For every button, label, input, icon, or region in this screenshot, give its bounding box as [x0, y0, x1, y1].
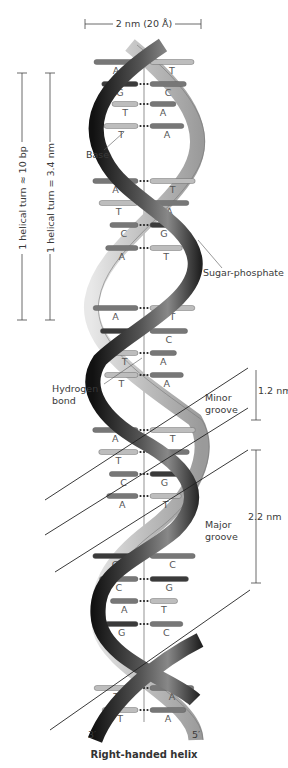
turn-nm-label: 1 helical turn = 3.4 nm — [45, 143, 56, 253]
base-letter-right: C — [169, 559, 176, 570]
base-letter-left: C — [115, 582, 122, 593]
base-letter-left: G — [118, 627, 125, 638]
base-letter-left: T — [121, 356, 128, 367]
base-letter-right: T — [169, 433, 176, 444]
base-letter-left: A — [119, 499, 126, 510]
dna-double-helix-diagram: 2 nm (20 Å) 1 helical turn ≈ 10 bp 1 hel… — [0, 0, 288, 768]
minor-groove-label-line1: Minor — [205, 392, 232, 403]
base-letter-right: A — [160, 356, 167, 367]
base-letter-right: T — [160, 604, 167, 615]
turn-bp-label: 1 helical turn ≈ 10 bp — [17, 146, 28, 250]
base-letter-left: A — [112, 311, 119, 322]
three-prime-end-label: 3′ — [88, 729, 96, 740]
base-letter-right: G — [161, 477, 168, 488]
groove-dimensions — [251, 370, 261, 583]
base-letter-right: C — [165, 334, 172, 345]
base-letter-left: T — [117, 378, 124, 389]
base-letter-right: A — [165, 713, 172, 724]
minor-groove-width-label: 1.2 nm — [258, 385, 288, 396]
base-letter-right: A — [163, 378, 170, 389]
hydrogen-bond-label-line1: Hydrogen — [52, 383, 98, 394]
diagram-caption: Right-handed helix — [90, 749, 198, 760]
major-groove-width-label: 2.2 nm — [248, 511, 281, 522]
base-letter-right: T — [162, 251, 169, 262]
base-letter-left: T — [115, 206, 122, 217]
base-letter-right: C — [163, 627, 170, 638]
major-groove-label-line2: groove — [205, 531, 238, 542]
width-dimension: 2 nm (20 Å) — [85, 16, 201, 30]
base-letter-right: T — [169, 184, 176, 195]
minor-groove-label-line2: groove — [205, 404, 238, 415]
base-letter-left: C — [120, 477, 127, 488]
sugar-phosphate-label: Sugar-phosphate — [203, 267, 284, 278]
hydrogen-bond-label-line2: bond — [52, 395, 76, 406]
base-letter-left: T — [117, 129, 124, 140]
base-letter-left: A — [119, 251, 126, 262]
width-label: 2 nm (20 Å) — [116, 18, 172, 29]
base-letter-left: A — [112, 433, 119, 444]
base-letter-right: A — [164, 129, 171, 140]
base-letter-left: A — [121, 604, 128, 615]
base-letter-left: T — [114, 455, 121, 466]
helical-turn-dimensions: 1 helical turn ≈ 10 bp 1 helical turn = … — [15, 73, 57, 320]
major-groove-label-line1: Major — [205, 519, 231, 530]
base-letter-left: T — [121, 107, 128, 118]
base-letter-right: G — [160, 228, 167, 239]
five-prime-end-label: 5′ — [192, 729, 200, 740]
base-letter-right: T — [168, 65, 175, 76]
base-letter-right: A — [160, 107, 167, 118]
base-letter-left: C — [121, 228, 128, 239]
base-letter-right: C — [165, 87, 172, 98]
base-label: Base — [86, 149, 109, 160]
base-letter-right: G — [166, 582, 173, 593]
